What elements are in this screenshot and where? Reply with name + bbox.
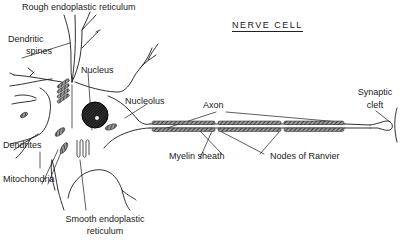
diagram-title: NERVE CELL [232, 20, 303, 32]
rough-er [57, 78, 70, 103]
label-smooth-er-line1: Smooth endoplastic [55, 214, 155, 224]
label-nodes-of-ranvier: Nodes of Ranvier [270, 151, 340, 161]
label-nucleolus: Nucleolus [125, 96, 165, 106]
label-myelin-sheath: Myelin sheath [169, 151, 225, 161]
smooth-er [77, 140, 89, 158]
label-dendritic-spines-line1: Dendritic [8, 34, 44, 44]
nerve-cell-diagram [0, 0, 401, 240]
label-synaptic-cleft-line1: Synaptic [350, 87, 400, 97]
label-nucleus: Nucleus [81, 65, 114, 75]
label-smooth-er-line2: reticulum [55, 226, 155, 236]
nucleolus [95, 116, 100, 121]
label-dendritic-spines-line2: spines [26, 46, 52, 56]
label-axon: Axon [203, 100, 224, 110]
label-rough-er: Rough endoplastic reticulum [22, 2, 136, 12]
synaptic-terminal [370, 108, 397, 142]
label-mitochondria: Mitochondria [3, 174, 55, 184]
nucleus [82, 102, 108, 128]
label-dendrites: Dendrites [3, 140, 42, 150]
myelin-sheath [152, 121, 344, 132]
label-synaptic-cleft-line2: cleft [350, 100, 400, 110]
